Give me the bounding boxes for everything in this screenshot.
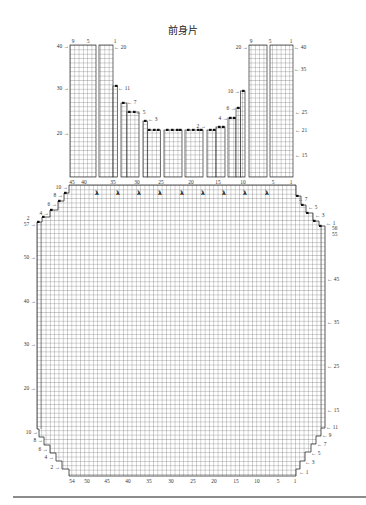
row-label: ← 7: [298, 196, 308, 202]
row-label: ← 9: [322, 432, 332, 438]
bind-off-dot-icon: [237, 107, 240, 109]
row-label: 5: [269, 38, 272, 44]
row-label: ← 35: [294, 66, 306, 72]
row-label: ← 5: [136, 109, 146, 115]
knitting-chart-front-body: 前身片 454035302520151051 54504540353025201…: [0, 0, 366, 505]
row-label: 8 →: [34, 437, 43, 443]
row-label: 4 →: [219, 115, 228, 121]
row-label: 10 →: [56, 184, 68, 190]
column-number: 10: [240, 179, 246, 185]
bind-off-dot-icon: [306, 212, 309, 214]
bind-off-dot-icon: [58, 200, 61, 202]
column-number: 5: [277, 478, 280, 484]
row-label: 20 →: [24, 385, 36, 391]
row-label: 57 →: [24, 221, 36, 227]
bind-off-dot-icon: [218, 126, 221, 128]
row-label: ← 40: [294, 44, 306, 50]
row-label: 10 →: [228, 88, 240, 94]
bind-off-dot-icon: [213, 129, 216, 131]
column-number: 1: [290, 179, 293, 185]
bind-off-dot-icon: [42, 216, 45, 218]
bind-off-dot-icon: [319, 225, 322, 227]
bind-off-dot-icon: [301, 204, 304, 206]
row-label: 4 →: [40, 210, 49, 216]
chart-block: [113, 86, 117, 177]
bind-off-dot-icon: [242, 90, 245, 92]
column-number: 20: [188, 179, 194, 185]
decrease-symbol-icon: λ: [116, 189, 120, 196]
bind-off-dot-icon: [37, 221, 40, 223]
row-label: ← 5: [308, 204, 318, 210]
bind-off-dot-icon: [176, 129, 179, 131]
body-section: [37, 185, 325, 476]
body-column-labels: 5450454035302520151051: [69, 478, 296, 484]
row-label: ← 7: [127, 99, 137, 105]
chart-block: [236, 108, 241, 177]
row-label: 9: [250, 38, 253, 44]
column-number: 25: [190, 478, 196, 484]
row-label: 40 →: [57, 43, 69, 49]
row-label: ← 45: [327, 276, 339, 282]
column-number: 40: [81, 179, 87, 185]
upper-column-labels: 454035302520151051: [69, 179, 292, 185]
bind-off-dot-icon: [313, 220, 316, 222]
row-label: 30 →: [24, 341, 36, 347]
bind-off-dot-icon: [171, 129, 174, 131]
column-number: 30: [168, 478, 174, 484]
chart-title: 前身片: [168, 24, 198, 36]
column-number: 1: [294, 478, 297, 484]
bind-off-dot-icon: [192, 129, 195, 131]
row-label: ← 5: [311, 450, 321, 456]
chart-block: [249, 45, 267, 177]
row-label: 6 →: [48, 201, 57, 207]
row-label: 10 →: [26, 429, 38, 435]
row-label: 9: [72, 38, 75, 44]
chart-block: [70, 45, 96, 177]
bind-off-dot-icon: [122, 102, 125, 104]
column-number: 25: [158, 179, 164, 185]
decrease-symbol-icon: λ: [158, 189, 162, 196]
bind-off-dot-icon: [209, 129, 212, 131]
bind-off-dot-icon: [233, 117, 236, 119]
bind-off-dot-icon: [148, 129, 151, 131]
row-label: 55: [332, 231, 338, 237]
chart-block: [216, 127, 225, 177]
column-number: 35: [110, 179, 116, 185]
bind-off-dot-icon: [50, 209, 53, 211]
row-label: ← 21: [295, 127, 307, 133]
decrease-symbol-icon: λ: [95, 189, 99, 196]
row-label: 2 →: [51, 464, 60, 470]
row-label: 20 →: [236, 44, 248, 50]
bind-off-dot-icon: [200, 129, 203, 131]
decrease-symbol-icon: λ: [180, 189, 184, 196]
body-grid: [37, 185, 325, 476]
decrease-symbol-icon: λ: [201, 189, 205, 196]
row-label: ← 3: [305, 459, 315, 465]
row-label: ← 11: [118, 85, 130, 91]
row-label: 6 →: [39, 446, 48, 452]
bind-off-dot-icon: [187, 129, 190, 131]
bind-off-dot-icon: [128, 111, 131, 113]
decrease-symbol-icon: λ: [243, 189, 247, 196]
row-label: 5: [87, 38, 90, 44]
bind-off-dot-icon: [64, 192, 67, 194]
column-number: 15: [233, 478, 239, 484]
row-label: ← 35: [327, 319, 339, 325]
column-number: 15: [215, 179, 221, 185]
column-number: 54: [69, 478, 75, 484]
column-number: 45: [69, 179, 75, 185]
chart-block: [228, 118, 236, 177]
chart-block: [121, 103, 127, 177]
chart-block: [207, 130, 216, 177]
row-label: 2 →: [197, 123, 206, 129]
row-label: 20 →: [57, 130, 69, 136]
row-label: ← 1: [299, 469, 309, 475]
row-label: 6 →: [227, 105, 236, 111]
bind-off-dot-icon: [222, 126, 225, 128]
column-number: 30: [134, 179, 140, 185]
bind-off-dot-icon: [144, 120, 147, 122]
column-number: 40: [125, 478, 131, 484]
bind-off-dot-icon: [179, 129, 182, 131]
row-label: 4 →: [45, 454, 54, 460]
bind-off-dot-icon: [197, 129, 200, 131]
